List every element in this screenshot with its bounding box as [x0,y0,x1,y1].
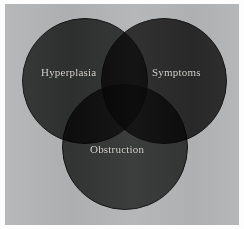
venn-circle-obstruction [62,84,188,210]
venn-diagram-figure: Hyperplasia Symptoms Obstruction [0,0,244,229]
diagram-panel: Hyperplasia Symptoms Obstruction [5,4,239,225]
